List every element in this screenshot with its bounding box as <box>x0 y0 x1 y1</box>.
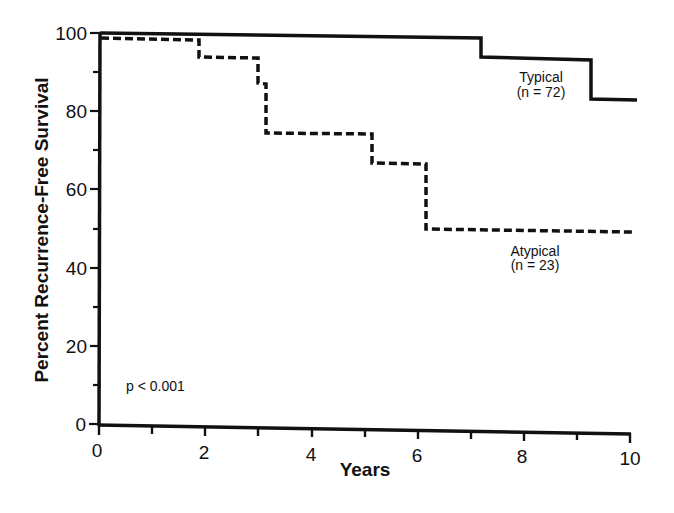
x-axis <box>98 425 631 443</box>
x-tick-8: 8 <box>517 446 528 467</box>
y-tick-0: 0 <box>75 414 86 435</box>
y-tick-80: 80 <box>66 101 87 122</box>
x-axis-title: Years <box>340 459 391 480</box>
typical-n-label: (n = 72) <box>517 84 566 100</box>
atypical-n-label: (n = 23) <box>511 257 560 273</box>
atypical-survival-curve <box>101 38 632 232</box>
x-tick-10: 10 <box>619 448 640 469</box>
x-tick-6: 6 <box>412 445 423 466</box>
y-tick-labels: 100 80 60 40 20 0 <box>55 23 87 435</box>
y-tick-20: 20 <box>66 336 87 357</box>
survival-chart: 100 80 60 40 20 0 0 2 4 6 8 10 Years Per… <box>0 0 674 513</box>
x-tick-0: 0 <box>92 440 103 461</box>
y-tick-40: 40 <box>66 258 87 279</box>
y-tick-60: 60 <box>66 179 87 200</box>
p-value-annotation: p < 0.001 <box>126 378 185 394</box>
x-tick-2: 2 <box>199 442 210 463</box>
typical-label: Typical <box>519 69 563 85</box>
y-axis-title: Percent Recurrence-Free Survival <box>31 77 52 382</box>
y-axis <box>89 32 100 426</box>
x-tick-4: 4 <box>306 444 317 465</box>
y-tick-100: 100 <box>55 23 87 44</box>
